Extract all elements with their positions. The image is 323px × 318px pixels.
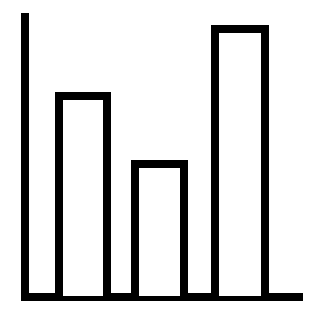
bar-1 <box>55 92 111 296</box>
y-axis <box>21 13 29 301</box>
bar-2 <box>131 160 188 296</box>
bar-3 <box>211 25 269 296</box>
bar-chart-icon <box>0 0 323 318</box>
